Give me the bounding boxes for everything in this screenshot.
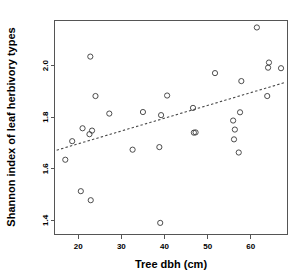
- data-point: [266, 60, 271, 65]
- data-point: [212, 71, 217, 76]
- data-point: [87, 132, 92, 137]
- data-point: [265, 93, 270, 98]
- y-tick-label: 1.8: [41, 111, 50, 123]
- data-point: [130, 147, 135, 152]
- data-point: [78, 189, 83, 194]
- x-tick-label: 20: [74, 242, 83, 251]
- x-tick-label: 40: [160, 242, 169, 251]
- y-tick-label: 1.4: [41, 214, 50, 226]
- y-axis-title: Shannon index of leaf herbivory types: [5, 27, 17, 226]
- scatter-plot-figure: 1.41.61.82.0 2030405060 Tree dbh (cm) Sh…: [0, 0, 307, 277]
- data-point: [254, 25, 259, 30]
- data-point: [239, 78, 244, 83]
- data-point: [231, 118, 236, 123]
- y-tick-label: 2.0: [41, 60, 50, 72]
- data-point: [89, 128, 94, 133]
- data-point-group: [63, 25, 284, 226]
- data-point: [63, 157, 68, 162]
- data-point: [265, 65, 270, 70]
- x-tick-label: 60: [246, 242, 255, 251]
- data-point: [70, 139, 75, 144]
- data-point: [158, 220, 163, 225]
- y-tick-label: 1.6: [41, 163, 50, 175]
- x-tick-label: 30: [117, 242, 126, 251]
- data-point: [157, 145, 162, 150]
- data-point: [158, 113, 163, 118]
- x-axis-title: Tree dbh (cm): [135, 258, 207, 270]
- y-axis-tick-marks: [51, 66, 55, 221]
- data-point: [190, 105, 195, 110]
- data-point: [93, 93, 98, 98]
- x-axis-tick-labels: 2030405060: [74, 242, 256, 251]
- data-point: [80, 126, 85, 131]
- data-point: [140, 109, 145, 114]
- x-tick-label: 50: [203, 242, 212, 251]
- data-point: [107, 111, 112, 116]
- data-point: [88, 198, 93, 203]
- data-point: [237, 110, 242, 115]
- data-point: [232, 127, 237, 132]
- y-axis-tick-labels: 1.41.61.82.0: [41, 60, 50, 226]
- x-axis-tick-marks: [78, 235, 251, 239]
- data-point: [88, 54, 93, 59]
- trend-line: [57, 82, 286, 150]
- data-point: [165, 93, 170, 98]
- plot-canvas: 1.41.61.82.0 2030405060 Tree dbh (cm) Sh…: [0, 0, 307, 277]
- data-point: [236, 150, 241, 155]
- data-point: [278, 66, 283, 71]
- data-point: [231, 137, 236, 142]
